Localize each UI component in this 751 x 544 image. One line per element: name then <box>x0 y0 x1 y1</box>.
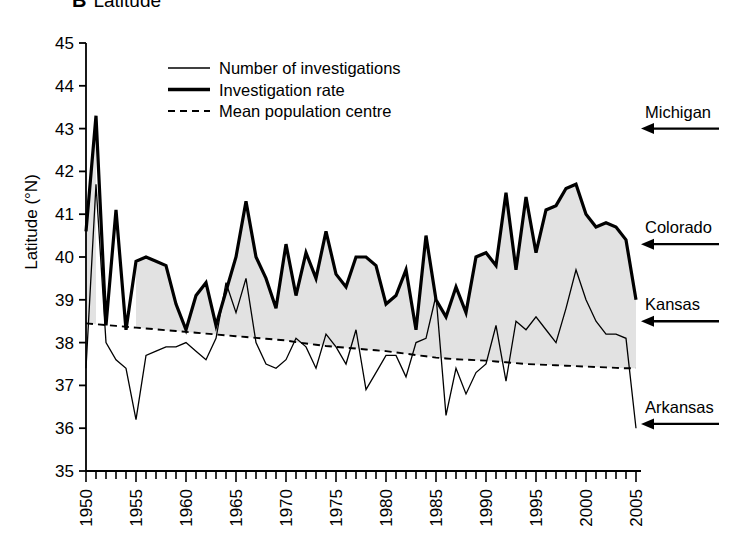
x-axis-ticks: 1950195519601965197019751980198519901995… <box>77 471 646 527</box>
annotation-label: Kansas <box>645 295 700 313</box>
y-tick-label: 45 <box>55 34 74 53</box>
annotation-arrow-head <box>641 316 654 327</box>
figure-panel-b: BLatitude Latitude (°N) 1950195519601965… <box>0 0 751 544</box>
y-tick-label: 36 <box>55 419 74 438</box>
x-tick-label: 1985 <box>427 489 446 527</box>
x-tick-label: 1995 <box>527 489 546 527</box>
legend-label: Mean population centre <box>219 102 391 120</box>
y-tick-label: 38 <box>55 334 74 353</box>
y-tick-label: 44 <box>55 77 74 96</box>
y-tick-label: 35 <box>55 462 74 481</box>
x-tick-label: 1970 <box>277 489 296 527</box>
legend-label: Investigation rate <box>219 81 345 99</box>
chart-svg: 1950195519601965197019751980198519901995… <box>0 0 751 544</box>
x-tick-label: 1960 <box>177 489 196 527</box>
x-tick-label: 2005 <box>627 489 646 527</box>
x-tick-label: 1950 <box>77 489 96 527</box>
annotation-arrow-head <box>641 123 654 134</box>
annotation-arrow-head <box>641 418 654 429</box>
y-tick-label: 40 <box>55 248 74 267</box>
y-tick-label: 37 <box>55 376 74 395</box>
x-tick-label: 1965 <box>227 489 246 527</box>
annotations-group: MichiganColoradoKansasArkansas <box>641 103 719 430</box>
shaded-band <box>86 116 636 369</box>
legend-label: Number of investigations <box>219 59 401 77</box>
y-tick-label: 43 <box>55 120 74 139</box>
annotation-label: Arkansas <box>645 398 714 416</box>
y-tick-label: 41 <box>55 205 74 224</box>
x-tick-label: 1955 <box>127 489 146 527</box>
annotation-arrow-head <box>641 239 654 250</box>
legend: Number of investigationsInvestigation ra… <box>168 59 401 120</box>
x-tick-label: 2000 <box>577 489 596 527</box>
annotation-label: Colorado <box>645 218 712 236</box>
x-tick-label: 1990 <box>477 489 496 527</box>
x-tick-label: 1980 <box>377 489 396 527</box>
annotation-label: Michigan <box>645 103 711 121</box>
y-axis-ticks: 4544434241403938373635 <box>55 34 86 481</box>
y-tick-label: 39 <box>55 291 74 310</box>
x-tick-label: 1975 <box>327 489 346 527</box>
y-tick-label: 42 <box>55 162 74 181</box>
